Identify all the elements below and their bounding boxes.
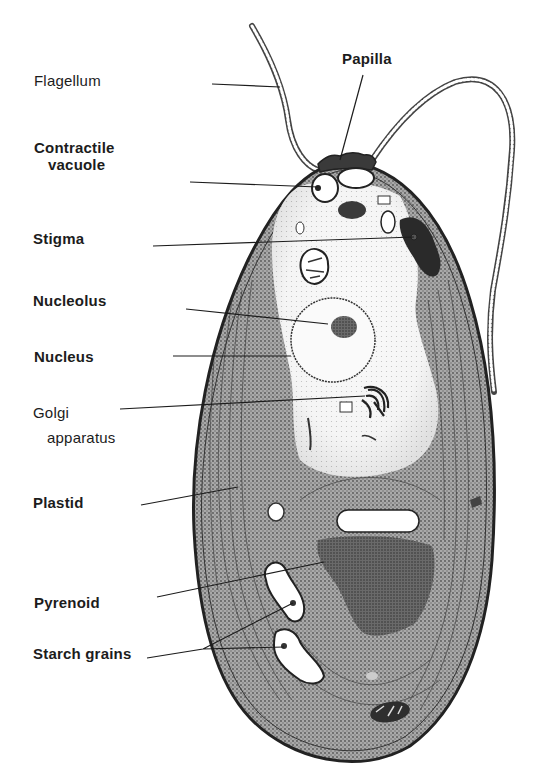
label-flagellum: Flagellum: [34, 72, 101, 89]
label-starch-grains: Starch grains: [33, 645, 131, 662]
label-nucleolus: Nucleolus: [33, 292, 106, 309]
label-papilla: Papilla: [342, 50, 392, 67]
contractile-vacuole-right: [338, 168, 374, 188]
cell-body: [193, 153, 494, 762]
nucleus: [291, 298, 375, 382]
label-contractile-vacuole-line1: Contractile: [34, 139, 115, 156]
label-golgi-line1: Golgi: [33, 404, 69, 421]
mitochondrion-top: [338, 201, 366, 219]
starch-plate: [337, 510, 419, 532]
label-pyrenoid: Pyrenoid: [34, 594, 100, 611]
label-plastid: Plastid: [33, 494, 84, 511]
nucleolus: [331, 316, 357, 338]
leader-papilla: [340, 75, 363, 160]
label-stigma: Stigma: [33, 230, 84, 247]
label-contractile-vacuole-line2: vacuole: [34, 156, 115, 173]
label-nucleus: Nucleus: [34, 348, 94, 365]
left-flagellum: [252, 26, 318, 170]
leader-flagellum: [212, 84, 280, 87]
label-golgi-apparatus: Golgi apparatus: [33, 400, 116, 450]
label-golgi-line2: apparatus: [33, 425, 116, 450]
label-contractile-vacuole: Contractile vacuole: [34, 139, 115, 173]
